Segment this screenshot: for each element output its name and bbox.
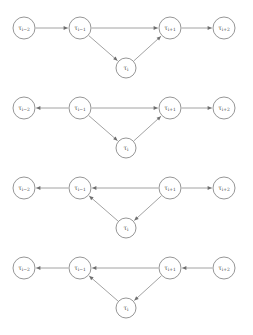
arrow-head-icon: [64, 26, 68, 30]
node-tau-i-plus-1: τi+1: [159, 97, 181, 119]
arrow-head-icon: [208, 186, 212, 190]
arrow-head-icon: [154, 106, 158, 110]
node-group: τi−2τi−1τiτi+1τi+2: [13, 177, 235, 238]
arrow-head-icon: [36, 266, 40, 270]
edge-n2-to-n3: [89, 36, 118, 61]
arrow-head-icon: [182, 266, 186, 270]
node-tau-i-plus-2: τi+2: [213, 17, 235, 39]
node-tau-i-minus-2: τi−2: [13, 177, 35, 199]
node-tau-i-plus-2: τi+2: [213, 177, 235, 199]
panel-2: τi−2τi−1τiτi+1τi+2: [13, 97, 235, 158]
arrow-head-icon: [92, 186, 96, 190]
edge-group: [36, 186, 212, 221]
node-tau-i: τi: [116, 138, 136, 158]
edge-n3-to-n4: [134, 116, 161, 141]
edge-n3-to-n2: [89, 196, 118, 221]
node-tau-i-plus-1: τi+1: [159, 257, 181, 279]
edge-n4-to-n3: [134, 196, 161, 221]
edge-group: [36, 266, 212, 301]
arrow-head-icon: [154, 26, 158, 30]
edge-group: [36, 106, 212, 141]
node-label-subscript: i+1: [168, 267, 176, 272]
edge-n4-to-n3: [134, 276, 161, 301]
node-label-subscript: i−1: [78, 27, 86, 32]
node-label-subscript: i+2: [222, 27, 230, 32]
edge-group: [36, 26, 212, 61]
node-tau-i-plus-1: τi+1: [159, 177, 181, 199]
arrow-head-icon: [208, 106, 212, 110]
node-tau-i-plus-2: τi+2: [213, 257, 235, 279]
node-label-subscript: i−2: [22, 107, 30, 112]
node-tau-i-minus-1: τi−1: [69, 257, 91, 279]
node-label-subscript: i+2: [222, 107, 230, 112]
panel-1: τi−2τi−1τiτi+1τi+2: [13, 17, 235, 78]
arrow-head-icon: [92, 266, 96, 270]
node-tau-i-minus-1: τi−1: [69, 97, 91, 119]
node-label-subscript: i−2: [22, 267, 30, 272]
node-group: τi−2τi−1τiτi+1τi+2: [13, 97, 235, 158]
node-label-subscript: i+1: [168, 27, 176, 32]
node-label-subscript: i−1: [78, 187, 86, 192]
arrow-head-icon: [36, 186, 40, 190]
node-tau-i-minus-1: τi−1: [69, 17, 91, 39]
node-label-subscript: i+1: [168, 187, 176, 192]
panel-3: τi−2τi−1τiτi+1τi+2: [13, 177, 235, 238]
edge-n2-to-n3: [89, 116, 118, 141]
node-tau-i: τi: [116, 58, 136, 78]
panel-4: τi−2τi−1τiτi+1τi+2: [13, 257, 235, 318]
diagram-svg: τi−2τi−1τiτi+1τi+2τi−2τi−1τiτi+1τi+2τi−2…: [0, 0, 253, 335]
node-label-subscript: i−1: [78, 107, 86, 112]
node-label-subscript: i−2: [22, 187, 30, 192]
node-label-subscript: i−2: [22, 27, 30, 32]
node-group: τi−2τi−1τiτi+1τi+2: [13, 17, 235, 78]
node-label-subscript: i+2: [222, 267, 230, 272]
edge-n3-to-n4: [134, 36, 161, 61]
arrow-head-icon: [36, 106, 40, 110]
edge-n3-to-n2: [89, 276, 118, 301]
node-tau-i-minus-1: τi−1: [69, 177, 91, 199]
node-group: τi−2τi−1τiτi+1τi+2: [13, 257, 235, 318]
arrow-head-icon: [208, 26, 212, 30]
node-tau-i-plus-1: τi+1: [159, 17, 181, 39]
figure-canvas: τi−2τi−1τiτi+1τi+2τi−2τi−1τiτi+1τi+2τi−2…: [0, 0, 253, 335]
node-label-subscript: i+1: [168, 107, 176, 112]
node-tau-i-minus-2: τi−2: [13, 257, 35, 279]
node-tau-i-minus-2: τi−2: [13, 17, 35, 39]
node-tau-i: τi: [116, 298, 136, 318]
node-tau-i-minus-2: τi−2: [13, 97, 35, 119]
node-label-subscript: i+2: [222, 187, 230, 192]
node-label-subscript: i−1: [78, 267, 86, 272]
node-tau-i-plus-2: τi+2: [213, 97, 235, 119]
clipped-caption-text: [0, 328, 253, 335]
node-tau-i: τi: [116, 218, 136, 238]
